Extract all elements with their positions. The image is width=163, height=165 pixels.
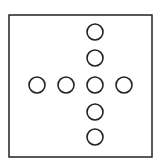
circle-bottom-2 bbox=[87, 129, 103, 145]
circle-right-1 bbox=[116, 77, 132, 93]
circle-center bbox=[87, 77, 103, 93]
circle-top-2 bbox=[87, 50, 103, 66]
circle-left-1 bbox=[29, 77, 45, 93]
cross-pattern-diagram bbox=[0, 0, 163, 165]
frame-border bbox=[9, 15, 152, 157]
circle-top-1 bbox=[87, 24, 103, 40]
circle-left-2 bbox=[58, 77, 74, 93]
circle-group bbox=[29, 24, 132, 145]
circle-bottom-1 bbox=[87, 104, 103, 120]
